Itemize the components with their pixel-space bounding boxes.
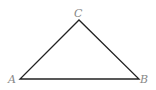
vertex-label-a: A: [7, 73, 16, 86]
vertex-label-b: B: [139, 73, 148, 86]
triangle-diagram: A B C: [0, 0, 156, 90]
triangle-abc: [20, 20, 139, 79]
vertex-label-c: C: [74, 7, 83, 20]
